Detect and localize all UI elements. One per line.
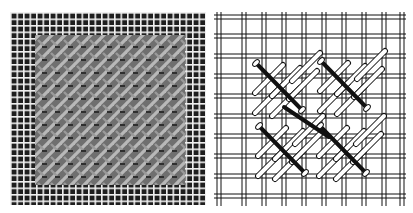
stitch-diagram	[214, 12, 406, 206]
photo-panel	[10, 12, 206, 205]
stitched-canvas-photo	[10, 12, 206, 205]
stitch-cluster-top-right	[316, 51, 385, 114]
stitched-area	[35, 35, 185, 185]
diagram-panel	[214, 12, 406, 206]
canvas-grid	[214, 12, 406, 206]
